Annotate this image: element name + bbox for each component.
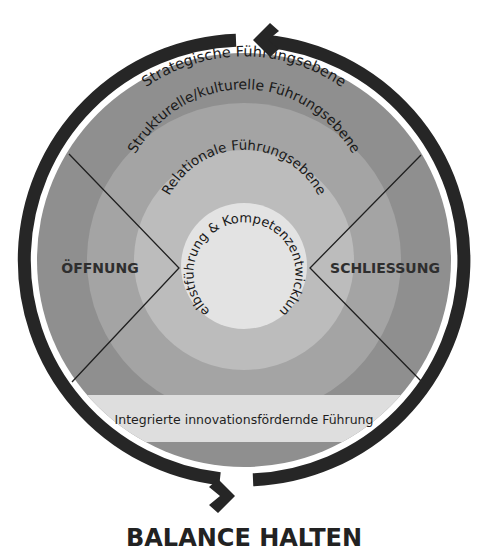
diagram-title: BALANCE HALTEN <box>126 524 362 552</box>
integration-label: Integrierte innovationsfördernde Führung <box>115 412 374 427</box>
leadership-balance-diagram: Strategische Führungsebene Strukturelle/… <box>0 0 487 554</box>
arrow-right-icon <box>209 479 235 513</box>
opening-label: ÖFFNUNG <box>61 259 138 276</box>
closing-label: SCHLIESSUNG <box>330 260 440 276</box>
